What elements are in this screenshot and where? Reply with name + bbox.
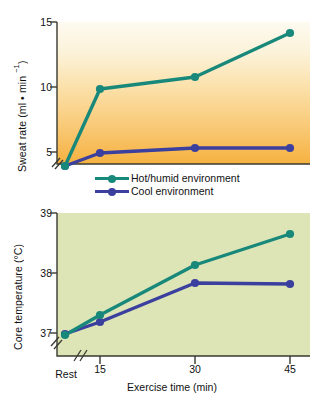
legend-item-cool: Cool environment bbox=[95, 185, 240, 198]
legend-label-hot-humid: Hot/humid environment bbox=[131, 172, 240, 185]
legend-item-hot-humid: Hot/humid environment bbox=[95, 172, 240, 185]
x-tick-label-45: 45 bbox=[270, 363, 310, 375]
legend-marker-hot-humid-icon bbox=[95, 173, 129, 184]
x-tick-label-30: 30 bbox=[175, 363, 215, 375]
x-axis-title-exercise-time: Exercise time (min) bbox=[97, 381, 247, 393]
chart-legend: Hot/humid environment Cool environment bbox=[95, 172, 240, 198]
legend-marker-cool-icon bbox=[95, 186, 129, 197]
sweat-rate-y-ticks bbox=[50, 22, 57, 152]
core-temperature-y-ticks bbox=[50, 213, 57, 333]
sweat-rate-plot-background bbox=[57, 22, 310, 164]
chart-panel-core-temperature: Core temperature (°C) 39 38 37 bbox=[0, 200, 317, 399]
chart-panel-sweat-rate: Sweat rate (ml • min −1) 15 10 5 bbox=[0, 0, 317, 210]
x-tick-label-15: 15 bbox=[80, 363, 120, 375]
legend-label-cool: Cool environment bbox=[131, 185, 213, 198]
figure-sweat-rate-and-core-temperature: Sweat rate (ml • min −1) 15 10 5 bbox=[0, 0, 317, 399]
